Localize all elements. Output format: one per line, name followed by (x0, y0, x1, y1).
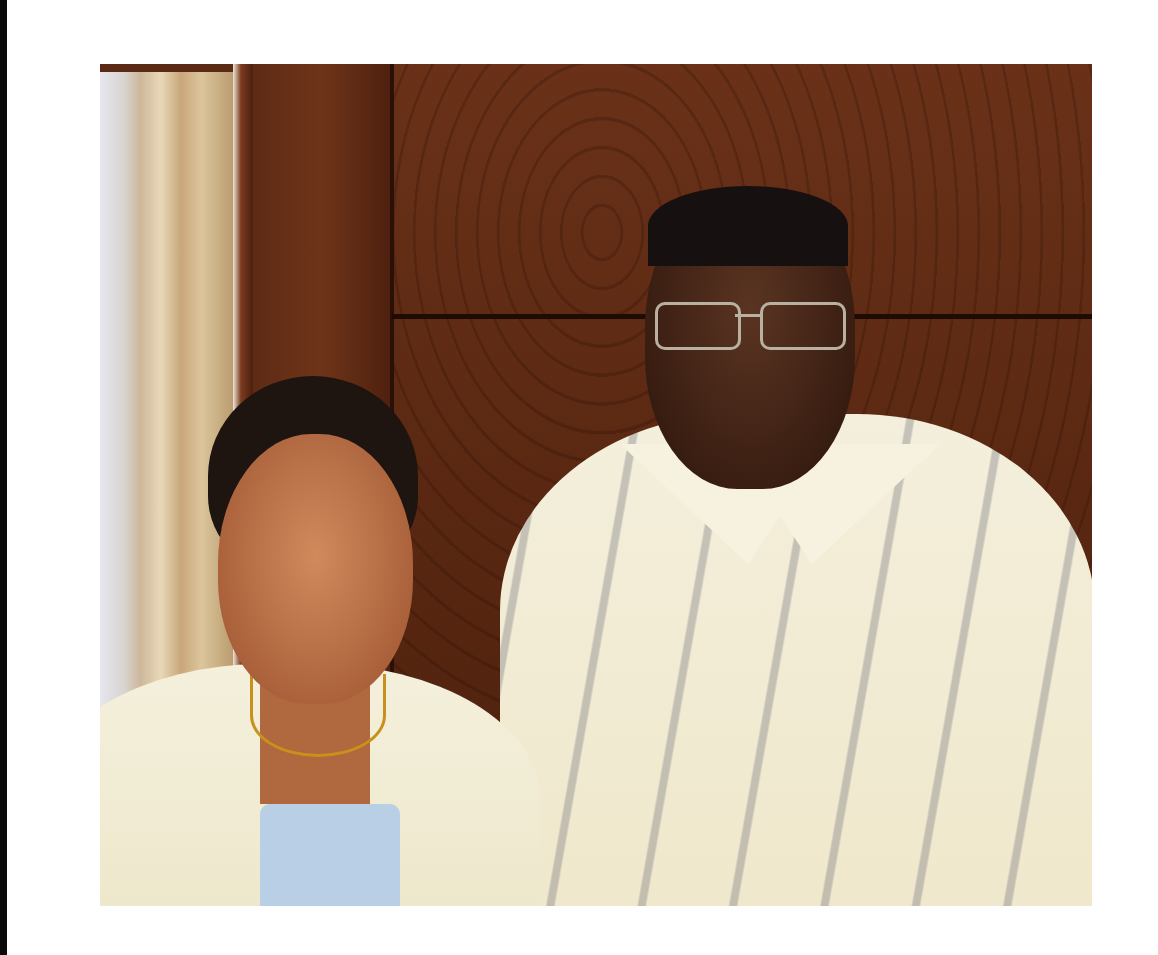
woman-face (218, 434, 413, 704)
scan-edge-strip (0, 0, 7, 955)
glasses-bridge (735, 314, 760, 317)
woman-top (260, 804, 400, 906)
man-hair (648, 186, 848, 266)
glasses-left-lens (655, 302, 741, 350)
photograph (100, 64, 1092, 906)
glasses-right-lens (760, 302, 846, 350)
